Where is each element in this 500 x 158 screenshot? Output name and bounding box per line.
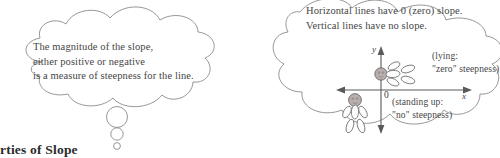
origin-label: 0 xyxy=(384,90,389,100)
right-cloud-line-1: Horizontal lines have 0 (zero) slope. xyxy=(306,4,462,19)
standing-caption-line-1: (standing up: xyxy=(392,96,452,109)
left-cloud-text-block: The magnitude of the slope, either posit… xyxy=(33,40,194,84)
tail-bubble-medium xyxy=(111,128,123,140)
left-cloud-line-2: either positive or negative xyxy=(33,55,194,70)
lying-caption-line-1: (lying: xyxy=(432,50,499,63)
lying-caption-line-2: "zero" steepness) xyxy=(432,63,499,76)
x-axis-label: x xyxy=(462,91,466,101)
y-axis-label: y xyxy=(372,44,376,54)
tail-bubble-large xyxy=(107,107,128,128)
lying-caption: (lying: "zero" steepness) xyxy=(432,50,499,75)
left-cloud-line-1: The magnitude of the slope, xyxy=(33,40,194,55)
right-cloud-text-block: Horizontal lines have 0 (zero) slope. Ve… xyxy=(306,4,462,33)
standing-caption: (standing up: "no" steepness) xyxy=(392,96,452,121)
left-cloud-line-3: is a measure of steepness for the line. xyxy=(33,69,194,84)
right-cloud-line-2: Vertical lines have no slope. xyxy=(306,19,462,34)
tail-bubble-small xyxy=(114,143,121,150)
illustration-canvas: The magnitude of the slope, either posit… xyxy=(0,0,500,158)
y-axis-arrow-down xyxy=(378,125,385,134)
standing-caption-line-2: "no" steepness) xyxy=(392,109,452,122)
section-heading: rties of Slope xyxy=(0,142,78,158)
